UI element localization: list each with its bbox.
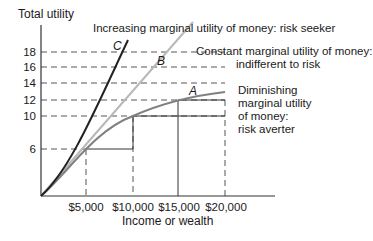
y-tick-16: 16 <box>12 61 36 73</box>
curve-b-description-line2: indifferent to risk <box>236 58 320 71</box>
curve-a-description-line4: risk averter <box>238 123 295 136</box>
y-tick-10: 10 <box>12 110 36 122</box>
y-tick-14: 14 <box>12 77 36 89</box>
vertical-gridlines <box>86 100 225 196</box>
y-tick-18: 18 <box>12 46 36 58</box>
curve-c-letter: C <box>113 39 122 53</box>
curve-a-description-line3: of money: <box>238 110 289 123</box>
solid-reference-lines <box>86 100 225 196</box>
x-tick-20000: $20,000 <box>196 201 256 213</box>
y-tick-12: 12 <box>12 94 36 106</box>
curve-a-letter: A <box>189 84 197 98</box>
curve-a-description-line1: Diminishing <box>238 84 297 97</box>
curve-c-line <box>41 40 128 196</box>
curve-b-description-line1: Constant marginal utility of money: <box>196 45 372 58</box>
curve-a-description-line2: marginal utility <box>238 97 312 110</box>
y-tick-6: 6 <box>12 143 36 155</box>
curve-b-letter: B <box>157 54 165 68</box>
x-axis-title: Income or wealth <box>122 215 213 228</box>
y-axis-title: Total utility <box>18 8 74 21</box>
curve-c-description: Increasing marginal utility of money: ri… <box>93 22 335 35</box>
